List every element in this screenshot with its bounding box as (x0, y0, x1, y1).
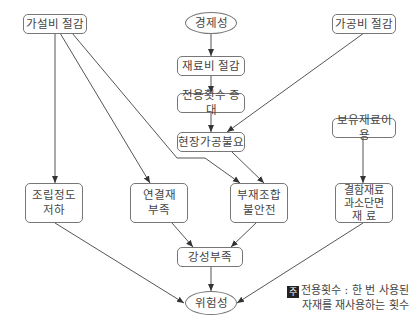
node-danger: 위험성 (185, 291, 237, 315)
node-temp-cost: 가설비 절감 (23, 14, 87, 34)
edge-assembly-danger (55, 223, 184, 303)
node-reuse-increase: 전용횟수 증대 (177, 93, 245, 113)
node-economy: 경제성 (185, 12, 237, 34)
edge-temp-connector (60, 33, 150, 183)
node-connector-shortage: 연결재 부족 (130, 183, 188, 223)
note-line-1: 전용횟수 : 한 번 사용된 (301, 284, 409, 297)
note-line-2: 자재를 재사용하는 횟수 (287, 298, 409, 313)
note-badge-icon: 주 (287, 286, 299, 298)
node-no-site-processing: 현장가공불요 (177, 132, 245, 152)
edge-member-stiffness (231, 223, 256, 247)
node-owned-material: 보유재료이용 (332, 118, 396, 138)
node-member-unstable: 부재조합 불안전 (230, 183, 288, 223)
node-assembly-precision: 조립정도 저하 (25, 183, 83, 223)
edge-site-member (232, 152, 264, 183)
node-stiffness-shortage: 강성부족 (177, 247, 243, 267)
node-defect-material: 결함재료 과소단면 재 료 (335, 183, 393, 223)
node-material-cost: 재료비 절감 (177, 56, 245, 76)
edge-connector-stiffness (172, 223, 193, 247)
footnote: 주전용횟수 : 한 번 사용된 자재를 재사용하는 횟수 (287, 283, 409, 313)
flow-diagram: 가설비 절감 경제성 가공비 절감 재료비 절감 전용횟수 증대 현장가공불요 … (0, 0, 417, 330)
node-processing-cost: 가공비 절감 (332, 14, 396, 34)
diagram-edges (0, 0, 417, 330)
